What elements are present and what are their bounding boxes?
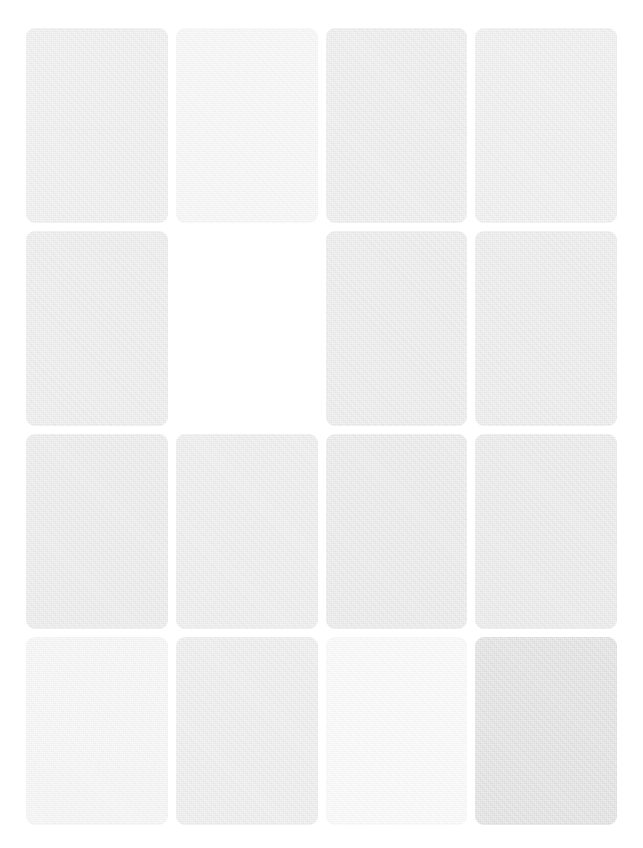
skeleton-card[interactable] (26, 28, 168, 223)
skeleton-card[interactable] (326, 434, 468, 629)
skeleton-card-grid (26, 28, 617, 832)
skeleton-card[interactable] (326, 28, 468, 223)
skeleton-empty-slot (176, 231, 318, 426)
skeleton-card[interactable] (475, 637, 617, 825)
skeleton-card[interactable] (176, 434, 318, 629)
skeleton-card[interactable] (475, 28, 617, 223)
skeleton-card[interactable] (475, 434, 617, 629)
skeleton-card[interactable] (326, 637, 468, 825)
skeleton-card[interactable] (26, 637, 168, 825)
skeleton-card[interactable] (176, 637, 318, 825)
skeleton-card[interactable] (26, 231, 168, 426)
skeleton-card[interactable] (176, 28, 318, 223)
skeleton-card[interactable] (475, 231, 617, 426)
skeleton-card[interactable] (26, 434, 168, 629)
skeleton-card[interactable] (326, 231, 468, 426)
